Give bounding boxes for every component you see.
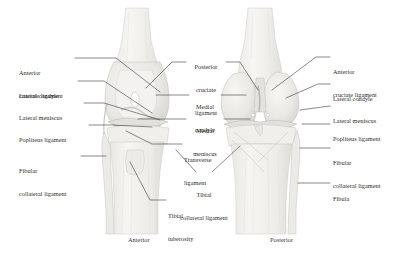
posterior-view-caption: Posterior [270, 236, 293, 243]
label-line-1: Transverse [184, 156, 212, 164]
fabella-medial [251, 113, 254, 116]
tibial-plateau-anterior [107, 125, 169, 144]
fabella-lateral [266, 113, 269, 116]
label-line-1: Fibular [333, 159, 380, 167]
label-line-1: Popliteus ligament [19, 136, 66, 144]
label-line-2: tuberosity [168, 235, 193, 243]
label-line-1: Tibial [168, 212, 193, 220]
label-tibial-tuberosity: Tibial tuberosity [168, 197, 193, 254]
knee-anatomy-figure: Anterior cruciate ligament Lateral condy… [0, 0, 412, 254]
label-line-1: Fibular [19, 167, 66, 175]
label-line-1: Posterior [186, 63, 226, 71]
label-line-1: Anterior [19, 69, 63, 77]
label-fibula-right: Fibula [333, 180, 349, 218]
label-line-1: Medial [190, 103, 220, 111]
label-line-1: Popliteus ligament [333, 135, 380, 143]
label-line-1: Medial [188, 127, 222, 135]
medial-condyle-posterior [221, 72, 257, 128]
lateral-condyle-posterior [263, 72, 299, 128]
label-line-1: Anterior [333, 68, 377, 76]
leader-lat-meniscus-right [300, 106, 330, 110]
label-line-2: collateral ligament [19, 190, 66, 198]
label-line-1: Fibula [333, 195, 349, 203]
label-fibular-collateral-ligament-left: Fibular collateral ligament [19, 152, 66, 213]
anterior-view-caption: Anterior [128, 236, 150, 243]
